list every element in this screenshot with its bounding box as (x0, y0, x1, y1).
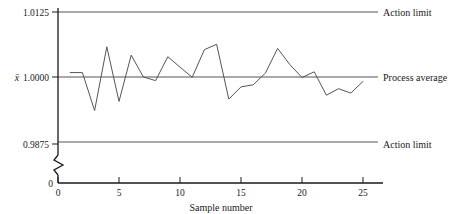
chart-background (0, 0, 453, 214)
lower-action-limit-label: Action limit (383, 139, 432, 150)
x-tick-label-10: 10 (175, 188, 185, 198)
process-average-label: Process average (383, 72, 448, 83)
y-tick-label-zero: 0 (48, 179, 53, 189)
x-tick-label-15: 15 (236, 188, 246, 198)
control-chart: 1.0125 1.0000 0.9875 0 x̄ 0 5 10 15 20 2… (0, 0, 453, 214)
x-tick-label-5: 5 (117, 188, 122, 198)
y-tick-label-low: 0.9875 (23, 140, 49, 150)
y-axis-title: x̄ (14, 72, 20, 83)
x-tick-label-0: 0 (56, 188, 61, 198)
upper-action-limit-label: Action limit (383, 7, 432, 18)
x-axis-title: Sample number (189, 202, 253, 213)
y-tick-label-top: 1.0125 (23, 8, 49, 18)
y-tick-label-mid: 1.0000 (23, 73, 49, 83)
x-tick-label-20: 20 (297, 188, 307, 198)
x-tick-label-25: 25 (358, 188, 368, 198)
control-chart-svg: 1.0125 1.0000 0.9875 0 x̄ 0 5 10 15 20 2… (0, 0, 453, 214)
